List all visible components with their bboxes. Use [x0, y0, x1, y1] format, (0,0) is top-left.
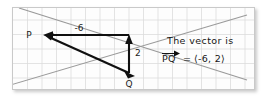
vector-overbar-arrowhead — [174, 51, 180, 57]
vector-pq-shaft — [51, 38, 129, 73]
horizontal-component-label: -6 — [75, 23, 84, 33]
vector-diagram: P Q -6 2 The vector is PQ = ⟨-6, 2⟩ — [13, 8, 254, 89]
annotation-line-2: PQ = ⟨-6, 2⟩ — [162, 51, 225, 64]
annotation-vector-value: ⟨-6, 2⟩ — [194, 53, 225, 64]
annotation-line-1: The vector is — [166, 35, 234, 46]
vertical-component-label: 2 — [135, 48, 141, 58]
point-p-label: P — [26, 30, 32, 40]
annotation-equals: = — [183, 53, 191, 64]
figure-stage: P Q -6 2 The vector is PQ = ⟨-6, 2⟩ — [0, 0, 266, 100]
point-q-label: Q — [125, 79, 132, 89]
annotation-vector-name: PQ — [162, 53, 176, 64]
figure-frame: P Q -6 2 The vector is PQ = ⟨-6, 2⟩ — [12, 7, 255, 90]
